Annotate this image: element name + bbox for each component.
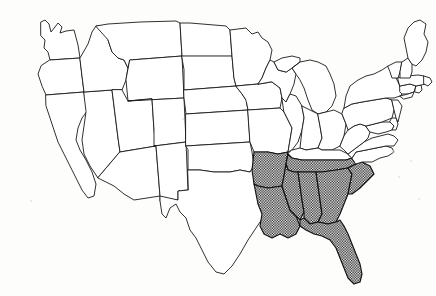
- state-south-dakota[interactable]: [182, 56, 236, 90]
- state-kentucky[interactable]: [288, 148, 352, 160]
- state-georgia[interactable]: [316, 168, 352, 224]
- states-layer: [38, 20, 432, 284]
- state-oregon[interactable]: [38, 58, 84, 95]
- state-washington[interactable]: [41, 20, 80, 60]
- state-south-carolina[interactable]: [348, 162, 374, 194]
- state-nebraska[interactable]: [184, 86, 248, 114]
- state-north-dakota[interactable]: [180, 23, 232, 56]
- state-kansas[interactable]: [186, 110, 250, 146]
- cape-cod-detail: [424, 76, 432, 86]
- us-map-figure: [0, 0, 436, 296]
- state-florida[interactable]: [300, 218, 362, 284]
- us-map-svg: [0, 0, 436, 296]
- state-wyoming[interactable]: [126, 56, 184, 101]
- state-oklahoma[interactable]: [186, 142, 254, 172]
